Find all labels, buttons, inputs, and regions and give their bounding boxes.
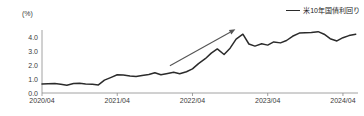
- x-axis-tickmarks: [42, 93, 343, 96]
- chart-container: (%) 米10年国債利回り 0.01.02.03.04.0 2020/04202…: [0, 0, 364, 116]
- trend-arrow-shaft: [170, 32, 230, 65]
- series-line-us-10y-yield: [42, 32, 356, 86]
- chart-plot-area: [0, 0, 364, 116]
